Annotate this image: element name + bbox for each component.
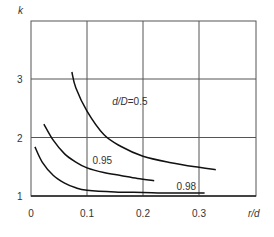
x-tick-label: 0.1 bbox=[80, 208, 94, 219]
curve-label: d/D=0.5 bbox=[112, 96, 148, 107]
x-tick-label: 0.2 bbox=[136, 208, 150, 219]
y-axis-label: k bbox=[18, 5, 24, 16]
x-tick-label: 0.3 bbox=[192, 208, 206, 219]
grid-lines bbox=[31, 21, 256, 196]
curves bbox=[35, 72, 216, 193]
curve-label: 0.95 bbox=[93, 155, 113, 166]
x-axis-label: r/d bbox=[248, 208, 260, 219]
chart: 00.10.20.3123 d/D=0.50.950.98 k r/d bbox=[0, 0, 274, 237]
y-tick-label: 1 bbox=[17, 191, 23, 202]
curve-0.95 bbox=[44, 124, 154, 181]
curve-labels: d/D=0.50.950.98 bbox=[93, 96, 197, 192]
x-tick-label: 0 bbox=[28, 208, 34, 219]
curve-label: 0.98 bbox=[177, 181, 197, 192]
y-tick-label: 2 bbox=[17, 133, 23, 144]
y-tick-label: 3 bbox=[17, 74, 23, 85]
